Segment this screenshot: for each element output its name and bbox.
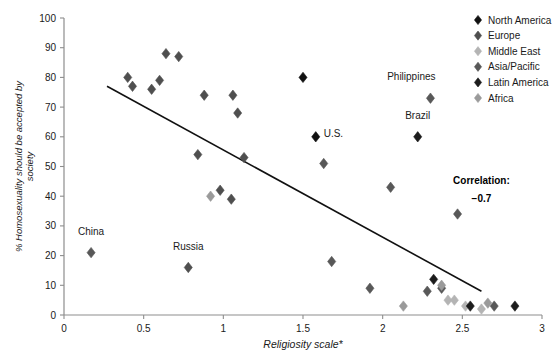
annotation-label: Philippines — [387, 71, 435, 82]
x-tick-label: 0.5 — [137, 323, 151, 334]
y-axis: 0102030405060708090100 — [39, 13, 64, 321]
x-tick-label: 1.5 — [296, 323, 310, 334]
legend-marker-icon — [474, 31, 481, 40]
y-axis-label-line: % Homosexuality should be accepted by — [13, 80, 24, 252]
data-point-europe — [227, 194, 235, 204]
x-tick-label: 1 — [221, 323, 227, 334]
annotation-label: U.S. — [324, 128, 343, 139]
data-point-africa — [399, 301, 407, 311]
data-point-asia-pacific — [87, 247, 95, 257]
data-point-asia-pacific — [426, 93, 434, 103]
legend-item-north-america[interactable]: North America — [474, 15, 551, 26]
y-tick-label: 10 — [45, 280, 57, 291]
data-point-latin-america — [511, 301, 519, 311]
legend-item-europe[interactable]: Europe — [474, 30, 520, 41]
y-tick-label: 0 — [50, 310, 56, 321]
correlation-annotation: Correlation:−0.7 — [453, 175, 510, 204]
data-point-europe — [184, 262, 192, 272]
data-point-europe — [240, 152, 248, 162]
x-tick-label: 2 — [380, 323, 386, 334]
legend-marker-icon — [474, 93, 481, 102]
y-tick-label: 50 — [45, 161, 57, 172]
data-point-europe — [194, 149, 202, 159]
legend-item-asia-pacific[interactable]: Asia/Pacific — [474, 61, 539, 72]
data-point-asia-pacific — [453, 209, 461, 219]
data-point-europe — [128, 81, 136, 91]
y-tick-label: 30 — [45, 220, 57, 231]
scatter-chart: 0102030405060708090100 00.511.522.53 % H… — [0, 0, 558, 351]
y-axis-label-line: society — [24, 150, 35, 181]
y-tick-label: 90 — [45, 42, 57, 53]
y-tick-label: 20 — [45, 250, 57, 261]
x-tick-label: 2.5 — [455, 323, 469, 334]
legend-label: Asia/Pacific — [488, 61, 540, 72]
legend-marker-icon — [474, 47, 481, 56]
legend-label: North America — [488, 15, 552, 26]
data-point-asia-pacific — [366, 283, 374, 293]
data-point-north-america — [312, 132, 320, 142]
legend-marker-icon — [474, 15, 481, 24]
x-axis-label: Religiosity scale* — [263, 338, 343, 350]
legend-label: Europe — [488, 30, 521, 41]
annotation-label: Brazil — [405, 110, 430, 121]
x-axis: 00.511.522.53 — [61, 315, 545, 334]
data-point-asia-pacific — [320, 158, 328, 168]
data-point-middle-east — [450, 295, 458, 305]
data-point-asia-pacific — [328, 256, 336, 266]
data-point-asia-pacific — [387, 182, 395, 192]
data-point-europe — [229, 90, 237, 100]
data-point-europe — [216, 185, 224, 195]
data-point-latin-america — [430, 274, 438, 284]
legend-label: Middle East — [488, 46, 540, 57]
chart-canvas: 0102030405060708090100 00.511.522.53 % H… — [0, 0, 558, 351]
correlation-value: −0.7 — [472, 193, 492, 204]
legend-item-latin-america[interactable]: Latin America — [474, 77, 549, 88]
data-point-europe — [148, 84, 156, 94]
legend-item-africa[interactable]: Africa — [474, 93, 514, 104]
y-axis-title: % Homosexuality should be accepted bysoc… — [13, 80, 35, 252]
data-point-middle-east — [477, 304, 485, 314]
legend-label: Latin America — [488, 77, 549, 88]
data-point-latin-america — [466, 301, 474, 311]
data-point-europe — [124, 72, 132, 82]
x-axis-title: Religiosity scale* — [263, 338, 343, 350]
legend-marker-icon — [474, 62, 481, 71]
y-tick-label: 80 — [45, 72, 57, 83]
x-tick-label: 3 — [539, 323, 545, 334]
y-tick-label: 100 — [39, 13, 56, 24]
chart-legend[interactable]: North AmericaEuropeMiddle EastAsia/Pacif… — [474, 15, 551, 104]
correlation-title: Correlation: — [453, 175, 510, 186]
y-tick-label: 40 — [45, 191, 57, 202]
data-point-latin-america — [414, 132, 422, 142]
annotation-label: Russia — [173, 241, 204, 252]
point-annotations: ChinaRussiaU.S.BrazilPhilippines — [78, 71, 436, 251]
data-point-europe — [200, 90, 208, 100]
data-point-europe — [156, 75, 164, 85]
data-point-europe — [234, 108, 242, 118]
legend-label: Africa — [488, 93, 514, 104]
legend-marker-icon — [474, 78, 481, 87]
data-point-africa — [207, 191, 215, 201]
annotation-label: China — [78, 226, 105, 237]
data-point-europe — [175, 51, 183, 61]
y-tick-label: 70 — [45, 102, 57, 113]
data-point-europe — [162, 48, 170, 58]
data-point-asia-pacific — [423, 286, 431, 296]
legend-item-middle-east[interactable]: Middle East — [474, 46, 540, 57]
x-tick-label: 0 — [61, 323, 67, 334]
y-tick-label: 60 — [45, 131, 57, 142]
data-point-north-america — [299, 72, 307, 82]
